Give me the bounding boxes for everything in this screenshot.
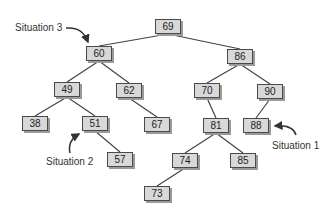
- tree-node-49: 49: [54, 82, 80, 97]
- tree-node-69: 69: [155, 19, 181, 34]
- tree-node-85: 85: [230, 153, 256, 168]
- tree-node-60: 60: [86, 46, 112, 61]
- edge-62-67: [129, 98, 157, 117]
- tree-node-38: 38: [22, 116, 48, 131]
- situation-2-arrow-icon: [69, 134, 79, 153]
- edge-49-51: [67, 97, 95, 116]
- edge-86-70: [207, 64, 240, 83]
- tree-node-70: 70: [194, 83, 220, 98]
- situation-3-arrow-icon: [66, 28, 88, 42]
- tree-node-81: 81: [203, 118, 229, 133]
- edge-69-60: [99, 34, 168, 46]
- tree-node-88: 88: [243, 118, 269, 133]
- situation-2-label: Situation 2: [46, 156, 93, 167]
- edge-90-88: [256, 99, 270, 118]
- edge-49-38: [35, 97, 67, 116]
- edge-81-74: [185, 133, 216, 153]
- situation-1-arrow-icon: [275, 126, 296, 135]
- tree-node-67: 67: [144, 117, 170, 132]
- edge-51-57: [95, 131, 120, 152]
- tree-node-73: 73: [144, 186, 170, 201]
- tree-node-90: 90: [257, 84, 283, 99]
- tree-node-51: 51: [82, 116, 108, 131]
- edge-70-81: [207, 98, 216, 118]
- situation-3-label: Situation 3: [15, 22, 62, 33]
- edge-86-90: [240, 64, 270, 84]
- tree-node-62: 62: [116, 83, 142, 98]
- edge-81-85: [216, 133, 243, 153]
- edge-60-49: [67, 61, 99, 82]
- edge-74-73: [157, 168, 185, 186]
- tree-node-57: 57: [107, 152, 133, 167]
- edge-60-62: [99, 61, 129, 83]
- tree-node-86: 86: [227, 49, 253, 64]
- tree-node-74: 74: [172, 153, 198, 168]
- situation-1-label: Situation 1: [272, 140, 319, 151]
- edge-69-86: [168, 34, 240, 49]
